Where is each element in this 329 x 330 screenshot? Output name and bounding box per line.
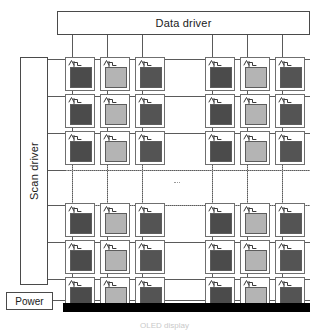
pixel-cell[interactable] <box>65 240 95 274</box>
oled-emitter-square <box>245 67 267 88</box>
matrix-centre-ellipsis <box>174 182 180 183</box>
pixel-cell[interactable] <box>100 203 130 237</box>
pixel-cell[interactable] <box>135 57 165 91</box>
pixel-cell[interactable] <box>135 203 165 237</box>
pixel-cell[interactable] <box>275 94 305 128</box>
pixel-cell[interactable] <box>65 94 95 128</box>
scan-driver-label: Scan driver <box>28 142 40 200</box>
oled-emitter-square <box>105 141 127 162</box>
oled-emitter-square <box>140 250 162 271</box>
figure-caption: OLED display <box>0 321 329 330</box>
oled-emitter-square <box>140 141 162 162</box>
pixel-cell[interactable] <box>135 240 165 274</box>
pixel-cell[interactable] <box>240 131 270 165</box>
oled-emitter-square <box>245 213 267 234</box>
pixel-cell[interactable] <box>205 94 235 128</box>
common-cathode-bar <box>63 303 310 312</box>
pixel-cell[interactable] <box>65 57 95 91</box>
data-driver-block[interactable]: Data driver <box>57 11 310 35</box>
oled-emitter-square <box>70 67 92 88</box>
oled-emitter-square <box>210 213 232 234</box>
oled-emitter-square <box>70 213 92 234</box>
pixel-cell[interactable] <box>240 203 270 237</box>
pixel-cell[interactable] <box>65 131 95 165</box>
oled-emitter-square <box>245 104 267 125</box>
oled-emitter-square <box>105 250 127 271</box>
power-block[interactable]: Power <box>6 292 53 310</box>
pixel-cell[interactable] <box>275 240 305 274</box>
pixel-cell[interactable] <box>240 57 270 91</box>
oled-emitter-square <box>280 67 302 88</box>
pixel-cell[interactable] <box>205 57 235 91</box>
oled-emitter-square <box>140 104 162 125</box>
pixel-cell[interactable] <box>100 240 130 274</box>
pixel-cell[interactable] <box>65 203 95 237</box>
oled-emitter-square <box>280 250 302 271</box>
oled-emitter-square <box>280 213 302 234</box>
oled-emitter-square <box>210 141 232 162</box>
pixel-cell[interactable] <box>100 57 130 91</box>
oled-emitter-square <box>105 213 127 234</box>
pixel-cell[interactable] <box>275 203 305 237</box>
pixel-cell[interactable] <box>205 203 235 237</box>
oled-emitter-square <box>70 250 92 271</box>
oled-emitter-square <box>245 141 267 162</box>
pixel-cell[interactable] <box>135 94 165 128</box>
pixel-cell[interactable] <box>240 240 270 274</box>
oled-emitter-square <box>105 67 127 88</box>
oled-emitter-square <box>105 104 127 125</box>
oled-emitter-square <box>140 213 162 234</box>
scan-driver-block[interactable]: Scan driver <box>20 57 48 285</box>
pixel-cell[interactable] <box>240 94 270 128</box>
pixel-cell[interactable] <box>205 131 235 165</box>
oled-emitter-square <box>280 141 302 162</box>
oled-emitter-square <box>70 104 92 125</box>
oled-emitter-square <box>70 141 92 162</box>
data-driver-label: Data driver <box>156 17 212 29</box>
oled-emitter-square <box>140 67 162 88</box>
oled-emitter-square <box>210 250 232 271</box>
pixel-cell[interactable] <box>100 131 130 165</box>
pixel-cell[interactable] <box>205 240 235 274</box>
row-ellipsis-dotted-line <box>66 170 310 171</box>
oled-emitter-square <box>280 104 302 125</box>
pixel-cell[interactable] <box>275 131 305 165</box>
oled-emitter-square <box>245 250 267 271</box>
oled-emitter-square <box>210 104 232 125</box>
power-label: Power <box>15 296 43 307</box>
pixel-cell[interactable] <box>275 57 305 91</box>
pixel-cell[interactable] <box>100 94 130 128</box>
pixel-cell[interactable] <box>135 131 165 165</box>
oled-emitter-square <box>210 67 232 88</box>
